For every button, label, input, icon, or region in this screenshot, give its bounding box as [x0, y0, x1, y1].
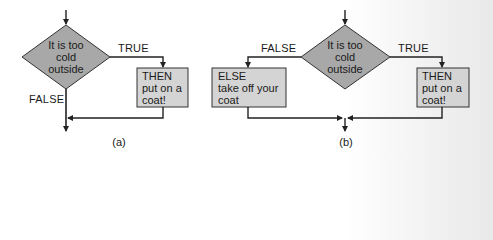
false-label: FALSE — [261, 42, 296, 54]
decision-text-line-3: outside — [327, 63, 362, 75]
decision-text-line-1: It is too — [48, 39, 83, 51]
decision-text-line-1: It is too — [327, 39, 362, 51]
false-branch-connector — [248, 57, 301, 67]
then-text-line-1: THEN — [422, 70, 452, 82]
true-branch-connector — [390, 57, 442, 67]
diagram-b: It is too cold outside FALSE ELSE take o… — [212, 10, 469, 148]
merge-connector-left — [248, 107, 342, 118]
then-text-line-2: put on a — [142, 82, 183, 94]
true-label: TRUE — [398, 42, 429, 54]
decision-text-line-2: cold — [335, 51, 355, 63]
decision-text-line-2: cold — [56, 51, 76, 63]
then-text-line-2: put on a — [422, 82, 463, 94]
diagram-a: It is too cold outside TRUE THEN put on … — [22, 10, 188, 148]
else-text-line-3: coat — [218, 94, 239, 106]
decision-text-line-3: outside — [48, 63, 83, 75]
caption-a: (a) — [112, 136, 125, 148]
then-text-line-3: coat! — [422, 94, 446, 106]
true-label: TRUE — [118, 42, 149, 54]
else-text-line-1: ELSE — [218, 70, 246, 82]
merge-connector — [68, 107, 163, 118]
flowchart-canvas: It is too cold outside TRUE THEN put on … — [0, 0, 493, 158]
caption-b: (b) — [339, 136, 352, 148]
then-text-line-3: coat! — [142, 94, 166, 106]
false-label: FALSE — [29, 93, 64, 105]
then-text-line-1: THEN — [142, 70, 172, 82]
else-text-line-2: take off your — [218, 82, 279, 94]
true-branch-connector — [110, 57, 163, 67]
merge-connector-right — [348, 107, 442, 118]
